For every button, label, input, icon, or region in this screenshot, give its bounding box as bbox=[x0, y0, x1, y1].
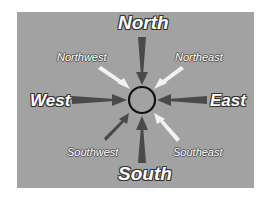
northwest-arrow-icon bbox=[98, 66, 130, 89]
label-west: West bbox=[30, 91, 70, 111]
label-east: East bbox=[210, 91, 246, 111]
southeast-arrow-icon bbox=[154, 113, 180, 142]
south-arrow-icon bbox=[136, 116, 148, 163]
label-northwest: Northwest bbox=[57, 51, 107, 63]
center-circle-icon bbox=[129, 87, 155, 113]
label-southwest: Southwest bbox=[67, 146, 118, 158]
east-arrow-icon bbox=[157, 94, 207, 106]
label-southeast: Southeast bbox=[173, 146, 223, 158]
northeast-arrow-icon bbox=[154, 66, 184, 89]
north-arrow-icon bbox=[136, 37, 148, 85]
label-northeast: Northeast bbox=[175, 51, 223, 63]
label-south: South bbox=[118, 163, 172, 185]
southwest-arrow-icon bbox=[104, 113, 129, 141]
west-arrow-icon bbox=[72, 94, 127, 106]
label-north: North bbox=[118, 12, 169, 34]
